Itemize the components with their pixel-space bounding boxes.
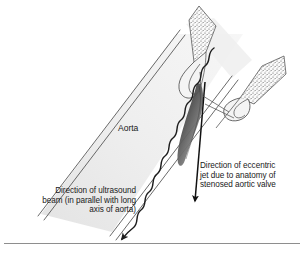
label-ultrasound-beam-line1: Direction of ultrasound xyxy=(12,186,136,196)
label-ultrasound-beam-line2: beam (in parallel with long xyxy=(12,196,136,206)
label-eccentric-jet-line3: stenosed aortic valve xyxy=(200,180,300,190)
diagram-canvas xyxy=(0,0,304,258)
label-eccentric-jet-line1: Direction of eccentric xyxy=(200,161,300,171)
label-ultrasound-beam: Direction of ultrasound beam (in paralle… xyxy=(12,186,136,215)
label-eccentric-jet: Direction of eccentric jet due to anatom… xyxy=(200,161,300,190)
aortic-stenosis-diagram: Aorta Direction of ultrasound beam (in p… xyxy=(0,0,304,258)
label-ultrasound-beam-line3: axis of aorta) xyxy=(12,205,136,215)
label-aorta-text: Aorta xyxy=(118,124,138,134)
label-aorta: Aorta xyxy=(118,124,138,134)
label-eccentric-jet-line2: jet due to anatomy of xyxy=(200,171,300,181)
